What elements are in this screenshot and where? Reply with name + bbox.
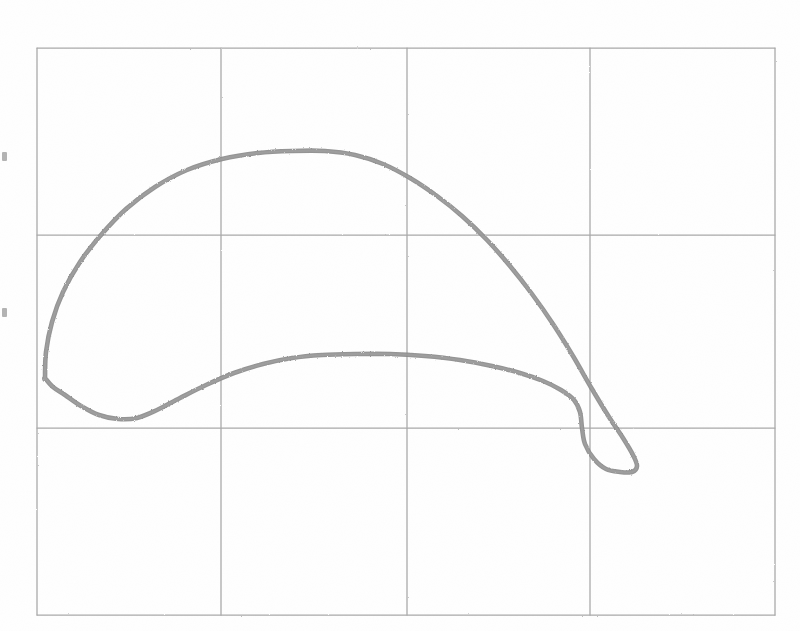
left-edge-mark-lower bbox=[2, 308, 7, 317]
figure-background bbox=[0, 0, 800, 631]
figure-root bbox=[0, 0, 800, 631]
left-edge-mark-upper bbox=[2, 152, 7, 161]
plot-canvas bbox=[0, 0, 800, 631]
